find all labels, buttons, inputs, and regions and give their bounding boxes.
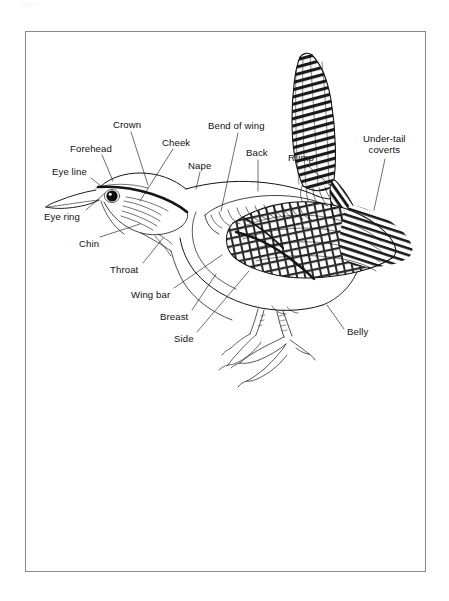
diagram-page: Crown Forehead Cheek Nape Eye line Eye r… xyxy=(0,0,449,601)
label-eye-ring: Eye ring xyxy=(44,211,80,222)
label-under-tail-coverts: Under-tail coverts xyxy=(363,133,406,156)
label-belly: Belly xyxy=(347,326,368,337)
label-back: Back xyxy=(246,147,268,158)
label-chin: Chin xyxy=(79,238,99,249)
label-cheek: Cheek xyxy=(162,137,190,148)
label-nape: Nape xyxy=(188,160,211,171)
label-eye-line: Eye line xyxy=(52,166,87,177)
illustration-frame xyxy=(25,31,426,572)
label-bend-of-wing: Bend of wing xyxy=(208,120,265,131)
label-crown: Crown xyxy=(113,119,141,130)
label-rump: Rump xyxy=(288,152,314,163)
label-forehead: Forehead xyxy=(70,143,112,154)
scan-artifact xyxy=(20,2,38,7)
label-throat: Throat xyxy=(110,264,138,275)
label-side: Side xyxy=(174,333,194,344)
label-breast: Breast xyxy=(160,311,188,322)
label-wing-bar: Wing bar xyxy=(131,289,170,300)
